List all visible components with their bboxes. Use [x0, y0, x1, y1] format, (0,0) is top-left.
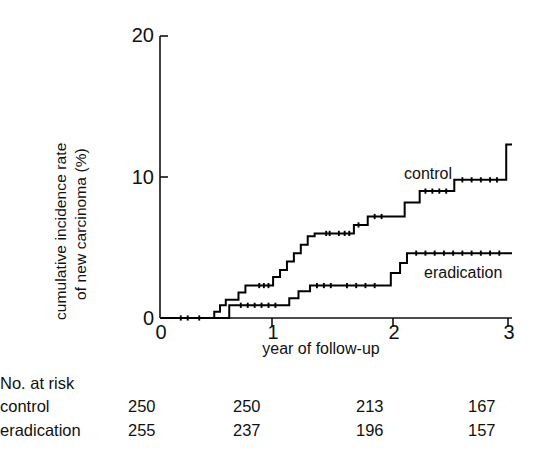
- risk-table-row-eradication: eradication 255 237 196 157: [0, 419, 496, 442]
- risk-table: No. at risk control 250 250 213 167 erad…: [0, 372, 557, 442]
- curve-control: [160, 145, 512, 318]
- curve-eradication: [160, 253, 512, 318]
- x-tick-label-0: 0: [147, 322, 175, 342]
- x-tick-label-3: 3: [495, 322, 523, 342]
- risk-value-control-year0: 250: [128, 395, 233, 418]
- risk-value-control-year3: 167: [468, 395, 496, 418]
- risk-row-label-control: control: [0, 395, 128, 418]
- risk-table-row-control: control 250 250 213 167: [0, 395, 496, 418]
- y-axis-title-line1: cumulative incidence rate: [52, 143, 70, 320]
- x-tick-label-2: 2: [380, 322, 408, 342]
- y-tick-label-10: 10: [108, 167, 154, 187]
- risk-value-control-year1: 250: [233, 395, 356, 418]
- risk-table-title: No. at risk: [0, 372, 468, 395]
- risk-row-label-eradication: eradication: [0, 419, 128, 442]
- risk-value-control-year2: 213: [356, 395, 468, 418]
- risk-value-eradication-year0: 255: [128, 419, 233, 442]
- y-tick-label-20: 20: [108, 25, 154, 45]
- control-curve-label: control: [404, 165, 452, 183]
- eradication-curve-label: eradication: [424, 264, 502, 282]
- kaplan-meier-figure: cumulative incidence rate of new carcino…: [0, 0, 557, 467]
- risk-value-eradication-year2: 196: [356, 419, 468, 442]
- x-tick-label-1: 1: [259, 322, 287, 342]
- risk-value-eradication-year3: 157: [468, 419, 496, 442]
- risk-value-eradication-year1: 237: [233, 419, 356, 442]
- x-axis-title: year of follow-up: [206, 340, 436, 358]
- y-axis-title-line2: of new carcinoma (%): [72, 148, 90, 300]
- series-layer: [160, 145, 512, 321]
